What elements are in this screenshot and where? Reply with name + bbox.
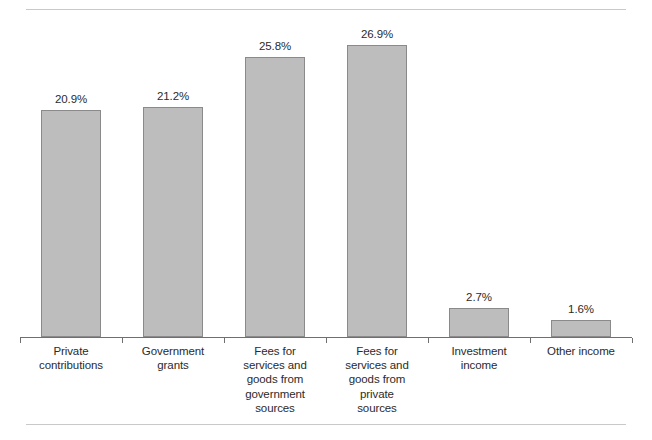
bar-group[interactable]: 25.8%: [224, 0, 326, 337]
bar-group[interactable]: 2.7%: [428, 0, 530, 337]
x-axis-tick: [530, 338, 531, 343]
bar[interactable]: [143, 107, 203, 337]
x-axis-category-label: Government grants: [122, 344, 224, 372]
bar[interactable]: [347, 45, 407, 337]
bar-value-label: 26.9%: [361, 28, 393, 40]
bar-chart-plot-area: 20.9%21.2%25.8%26.9%2.7%1.6% Private con…: [0, 0, 652, 440]
bar-group[interactable]: 20.9%: [20, 0, 122, 337]
x-axis-category-label: Other income: [530, 344, 632, 358]
bar-group[interactable]: 21.2%: [122, 0, 224, 337]
x-axis-tick: [632, 338, 633, 343]
chart-page: 20.9%21.2%25.8%26.9%2.7%1.6% Private con…: [0, 0, 652, 440]
x-axis-tick: [326, 338, 327, 343]
bar-value-label: 21.2%: [157, 90, 189, 102]
bar[interactable]: [245, 57, 305, 337]
x-axis-category-label: Fees for services and goods from governm…: [224, 344, 326, 415]
bar-value-label: 1.6%: [568, 303, 594, 315]
bar-value-label: 2.7%: [466, 291, 492, 303]
x-axis-category-label: Investment income: [428, 344, 530, 372]
x-axis-tick: [20, 338, 21, 343]
x-axis-tick: [224, 338, 225, 343]
x-axis-tick: [428, 338, 429, 343]
bar-value-label: 25.8%: [259, 40, 291, 52]
x-axis-category-label: Private contributions: [20, 344, 122, 372]
bar[interactable]: [449, 308, 509, 337]
bar[interactable]: [41, 110, 101, 337]
x-axis-category-label: Fees for services and goods from private…: [326, 344, 428, 415]
bar-group[interactable]: 26.9%: [326, 0, 428, 337]
bar[interactable]: [551, 320, 611, 337]
bar-value-label: 20.9%: [55, 93, 87, 105]
bar-group[interactable]: 1.6%: [530, 0, 632, 337]
x-axis-tick: [122, 338, 123, 343]
